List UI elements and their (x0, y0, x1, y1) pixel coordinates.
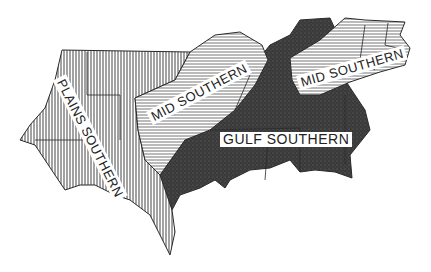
label-gulf-southern: GULF SOUTHERN (220, 132, 352, 147)
map-graphic (0, 0, 431, 272)
dialect-map: PLAINS SOUTHERN MID SOUTHERN MID SOUTHER… (0, 0, 431, 272)
